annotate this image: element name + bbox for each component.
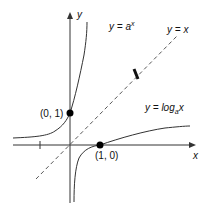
identity-label: y = x — [166, 24, 189, 35]
point-1-0-label: (1, 0) — [95, 150, 118, 161]
exponential-label: y = ax — [108, 20, 135, 32]
point-1-0 — [97, 142, 104, 149]
exponential-curve — [13, 22, 87, 138]
graph-canvas: y x y = ax y = x y = logax (0, 1) (1, 0) — [0, 0, 210, 213]
point-0-1-label: (0, 1) — [40, 108, 63, 119]
logarithm-curve — [74, 126, 190, 202]
x-axis-label: x — [192, 150, 199, 161]
y-axis-label: y — [76, 9, 83, 20]
point-0-1 — [67, 110, 74, 117]
x-axis — [13, 141, 196, 149]
break-mark — [134, 69, 138, 79]
logarithm-label: y = logax — [144, 102, 185, 115]
